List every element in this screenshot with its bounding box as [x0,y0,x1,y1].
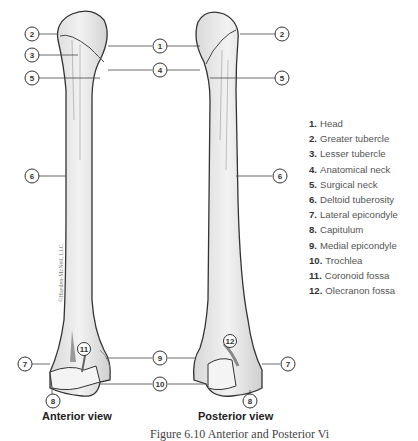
callout-10: 10 [153,377,167,391]
legend-item: 2.Greater tubercle [309,131,398,146]
legend-item: 6.Deltoid tuberosity [309,192,398,207]
callout-6-anterior: 6 [25,169,39,183]
legend-item: 10.Trochlea [309,253,398,268]
callout-8-anterior: 8 [46,394,60,408]
svg-text:4: 4 [158,66,163,75]
callout-7-anterior: 7 [18,357,32,371]
copyright-watermark: ©Hayden-McNeil, LLC [58,244,64,302]
anterior-view-label: Anterior view [42,410,112,422]
svg-text:10: 10 [156,380,165,389]
svg-text:6: 6 [30,172,35,181]
svg-text:5: 5 [280,74,285,83]
callout-1: 1 [153,39,167,53]
svg-text:8: 8 [248,397,253,406]
callout-9: 9 [153,351,167,365]
legend-item: 5.Surgical neck [309,177,398,192]
svg-text:1: 1 [158,42,163,51]
anterior-humerus [50,11,110,396]
callout-3: 3 [25,48,39,62]
svg-text:9: 9 [158,354,163,363]
figure-caption: Figure 6.10 Anterior and Posterior Vi [150,427,329,441]
svg-text:7: 7 [286,360,291,369]
svg-text:12: 12 [226,337,235,346]
callout-5-posterior: 5 [275,71,289,85]
posterior-view-label: Posterior view [198,410,273,422]
legend-item: 8.Capitulum [309,222,398,237]
callout-11: 11 [78,343,91,356]
legend-item: 9.Medial epicondyle [309,238,398,253]
legend-item: 7.Lateral epicondyle [309,207,398,222]
svg-text:8: 8 [51,397,56,406]
callout-6-posterior: 6 [273,169,287,183]
svg-text:5: 5 [30,74,35,83]
callout-2-posterior: 2 [275,27,289,41]
structure-legend: 1.Head 2.Greater tubercle 3.Lesser tuber… [309,116,398,298]
svg-text:2: 2 [30,30,35,39]
svg-text:2: 2 [280,30,285,39]
callout-12: 12 [224,335,237,348]
legend-item: 1.Head [309,116,398,131]
callout-5-anterior: 5 [25,71,39,85]
callout-4: 4 [153,63,167,77]
legend-item: 4.Anatomical neck [309,162,398,177]
svg-text:3: 3 [30,51,35,60]
svg-text:6: 6 [278,172,283,181]
svg-text:7: 7 [23,360,28,369]
legend-item: 12.Olecranon fossa [309,283,398,298]
callout-8-posterior: 8 [243,394,257,408]
callout-2-anterior: 2 [25,27,39,41]
legend-item: 11.Coronoid fossa [309,268,398,283]
callout-7-posterior: 7 [281,357,295,371]
svg-text:11: 11 [80,345,89,354]
legend-item: 3.Lesser tubercle [309,146,398,161]
